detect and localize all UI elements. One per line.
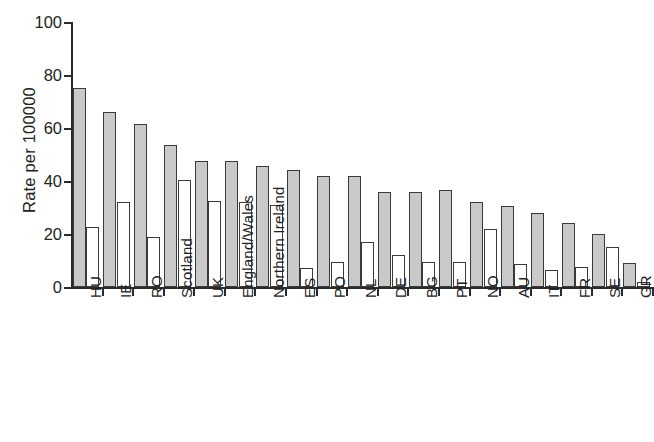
x-tick-label: PT [453,278,470,298]
y-tick-mark [64,75,71,77]
x-tick-label: IT [545,284,562,298]
x-tick-label: GR [637,275,654,298]
plot-area: 020406080100 [71,22,652,287]
bar-gray [531,213,544,287]
bar-gray [195,161,208,287]
x-tick-label: NO [484,275,501,298]
bar-gray [470,202,483,287]
bar-gray [592,234,605,287]
bar-gray [73,88,86,287]
bar-gray [623,263,636,287]
x-tick-label: Scotland [178,238,195,298]
x-tick-label: PO [331,276,348,298]
x-tick-label: NL [362,278,379,298]
bar-gray [256,166,269,287]
y-tick-mark [64,287,71,289]
x-tick-label: RO [148,275,165,298]
x-tick-label: England/Wales [239,195,256,298]
bar-gray [348,176,361,287]
y-tick-mark [64,22,71,24]
x-tick-label: BG [423,276,440,298]
x-tick-label: DE [392,277,409,298]
x-tick-label: HU [87,276,104,298]
bar-gray [134,124,147,287]
x-tick-label: SE [606,278,623,298]
bar-gray [439,190,452,287]
x-tick-label: AU [515,277,532,298]
bar-gray [317,176,330,287]
y-tick-label: 80 [44,66,62,85]
bar-gray [378,192,391,287]
bar-gray [225,161,238,287]
x-tick-label: Northern Ireland [270,186,287,298]
y-tick-label: 40 [44,172,62,191]
bar-gray [103,112,116,287]
y-axis-label: Rate per 100000 [14,0,44,300]
bar-white [208,201,221,287]
y-tick-mark [64,128,71,130]
y-tick-mark [64,181,71,183]
y-tick-mark [64,234,71,236]
x-tick-label: ES [301,278,318,298]
x-tick-label: UK [209,277,226,298]
x-tick-label: IE [117,283,134,298]
y-tick-label: 100 [34,13,62,32]
y-tick-label: 60 [44,119,62,138]
bar-gray [409,192,422,287]
bar-gray [164,145,177,287]
x-tick-label: FR [576,278,593,298]
bar-gray [287,170,300,287]
y-tick-label: 20 [44,225,62,244]
bar-white [117,202,130,287]
y-tick-label: 0 [53,278,62,297]
bar-gray [501,206,514,287]
bar-gray [562,223,575,287]
